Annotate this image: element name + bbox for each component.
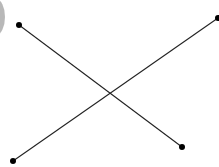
- edge-circle-decoration: [0, 0, 5, 35]
- point-c: [10, 158, 16, 164]
- diagram-canvas: [0, 0, 219, 167]
- segments-layer: [13, 18, 218, 161]
- point-a: [16, 22, 22, 28]
- crossing-lines-diagram: [0, 0, 219, 167]
- segment-ab: [19, 25, 182, 147]
- point-b: [179, 144, 185, 150]
- segment-cd: [13, 18, 218, 161]
